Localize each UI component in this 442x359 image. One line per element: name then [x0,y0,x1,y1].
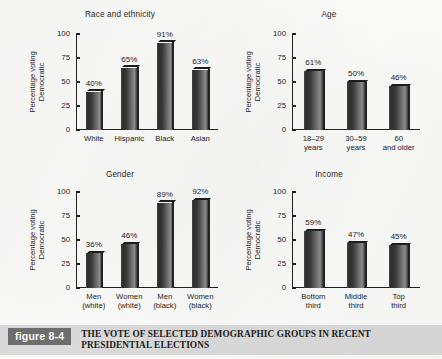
chart-panel-gender: GenderPercentage votingDemocratic0255075… [8,170,221,322]
figure-container: Race and ethnicityPercentage votingDemoc… [0,0,442,359]
y-axis-tick: 25 [76,263,80,264]
x-axis-category-label: Women(black) [187,292,213,311]
bar: 47% [347,243,366,288]
figure-caption-bar: figure 8-4 THE VOTE OF SELECTED DEMOGRAP… [0,325,442,355]
x-axis-category-line: third [391,301,406,310]
x-axis-category-line: Asian [191,134,210,143]
x-axis-category-line: 60 [383,134,415,143]
y-axis-tick-label: 100 [273,29,286,38]
y-axis-label: Percentage votingDemocratic [244,192,262,288]
chart-title: Race and ethnicity [22,10,218,19]
y-axis-label: Percentage votingDemocratic [28,34,46,130]
y-axis-tick: 50 [292,81,296,82]
figure-number-badge: figure 8-4 [8,328,71,345]
bar-side-face [172,42,174,129]
bar-value-label: 61% [305,58,321,67]
bar-side-face [137,243,139,287]
bar-value-label: 50% [348,69,364,78]
bar-value-label: 46% [391,73,407,82]
y-axis-tick-label: 25 [61,101,70,110]
plot-area: 025507510040%White65%Hispanic91%Black63%… [76,34,218,130]
y-axis-label: Percentage votingDemocratic [28,192,46,288]
y-axis-label-line2: Democratic [37,34,46,130]
bar-side-face [137,67,139,129]
y-axis-tick: 50 [76,239,80,240]
bar-side-face [408,85,410,129]
y-axis-tick: 25 [292,263,296,264]
x-axis-category-label: 60and older [383,134,415,153]
y-axis-tick-label: 0 [282,283,286,292]
bar-value-label: 92% [192,187,208,196]
y-axis-tick-label: 25 [277,259,286,268]
x-axis-category-line: years [303,143,324,152]
bar: 40% [86,92,102,130]
x-axis-category-label: Topthird [391,292,406,311]
y-axis-label-line1: Percentage voting [28,34,37,130]
bar: 65% [121,68,137,130]
bar: 61% [304,71,323,130]
y-axis-tick: 100 [76,191,80,192]
y-axis-tick-label: 25 [277,101,286,110]
y-axis-tick-label: 75 [277,53,286,62]
x-axis-category-label: 18–29years [303,134,324,153]
bar: 59% [304,231,323,288]
chart-panel-age: AgePercentage votingDemocratic0255075100… [224,10,437,162]
bar-side-face [101,252,103,287]
x-axis-category-line: Men [82,292,105,301]
bar: 36% [86,253,102,288]
x-axis-category-line: years [345,143,366,152]
bar-side-face [365,242,367,287]
y-axis-tick-label: 0 [282,125,286,134]
y-axis-tick: 75 [76,57,80,58]
bar-side-face [172,202,174,287]
chart-panel-race-and-ethnicity: Race and ethnicityPercentage votingDemoc… [8,10,221,162]
x-axis-category-label: Asian [191,134,210,143]
bar-value-label: 40% [86,79,102,88]
y-axis-tick-label: 75 [61,211,70,220]
x-axis-category-label: Men(white) [82,292,105,311]
x-axis-category-line: (black) [187,301,213,310]
chart-title: Income [238,170,420,179]
bar: 46% [389,86,408,130]
x-axis-category-line: Men [153,292,176,301]
y-axis-tick-label: 25 [61,259,70,268]
x-axis-category-label: Hispanic [115,134,144,143]
x-axis-category-line: Women [187,292,213,301]
x-axis-category-line: and older [383,143,415,152]
bar-value-label: 91% [157,30,173,39]
y-axis-tick: 75 [76,215,80,216]
x-axis-category-label: Men(black) [153,292,176,311]
y-axis-label-line1: Percentage voting [244,192,253,288]
x-axis-category-label: 30–59years [345,134,366,153]
x-axis-category-line: Middle [345,292,368,301]
bar-value-label: 45% [391,232,407,241]
y-axis-tick-label: 50 [277,235,286,244]
y-axis-label-line2: Democratic [253,192,262,288]
y-axis-label-line2: Democratic [253,34,262,130]
y-axis-tick: 50 [76,81,80,82]
x-axis-category-line: (white) [116,301,142,310]
y-axis-tick: 25 [292,105,296,106]
x-axis-category-line: Women [116,292,142,301]
chart-title: Age [238,10,420,19]
y-axis-tick: 0 [76,129,80,130]
bar-value-label: 63% [192,57,208,66]
y-axis-tick: 0 [76,287,80,288]
bar-side-face [101,91,103,129]
bar: 91% [157,43,173,130]
bar-value-label: 59% [305,218,321,227]
bar: 92% [192,200,208,288]
plot-area: 025507510061%18–29years50%30–59years46%6… [292,34,420,130]
y-axis-tick-label: 75 [61,53,70,62]
y-axis-tick: 0 [292,129,296,130]
x-axis-category-label: Middlethird [345,292,368,311]
y-axis-tick-label: 100 [273,187,286,196]
bar-value-label: 65% [121,55,137,64]
x-axis-category-label: Black [155,134,174,143]
bar-value-label: 89% [157,190,173,199]
y-axis-tick-label: 100 [57,187,70,196]
y-axis-tick-label: 50 [277,77,286,86]
bar-side-face [208,199,210,287]
y-axis-label-line2: Democratic [37,192,46,288]
x-axis-category-line: Hispanic [115,134,144,143]
